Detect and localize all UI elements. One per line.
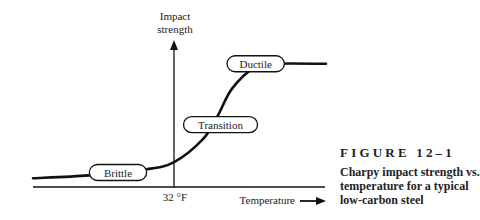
figure-number: FIGURE 12–1 bbox=[340, 145, 480, 161]
impact-strength-curve bbox=[33, 64, 326, 179]
x-axis-arrow-icon bbox=[316, 197, 326, 205]
figure-caption: FIGURE 12–1 Charpy impact strength vs. t… bbox=[340, 145, 480, 207]
y-axis-arrow-icon bbox=[170, 40, 178, 50]
annotation-label: Ductile bbox=[239, 58, 271, 70]
annotation-brittle: Brittle bbox=[89, 165, 146, 181]
y-axis-label-line1: Impact bbox=[160, 10, 191, 22]
annotation-label: Brittle bbox=[104, 167, 132, 179]
annotation-label: Transition bbox=[198, 119, 243, 131]
annotation-ductile: Ductile bbox=[227, 56, 284, 72]
x-tick-label: 32 °F bbox=[163, 191, 187, 203]
figure-caption-text: Charpy impact strength vs. temperature f… bbox=[340, 165, 480, 207]
y-axis-label-line2: strength bbox=[157, 23, 193, 35]
annotation-transition: Transition bbox=[184, 117, 258, 133]
x-axis-label: Temperature bbox=[240, 194, 296, 206]
